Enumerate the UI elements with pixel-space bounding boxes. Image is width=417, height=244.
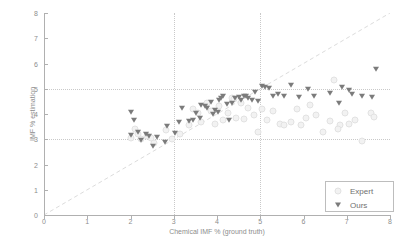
y-tick [44, 114, 48, 115]
data-point-ours [162, 140, 168, 145]
data-point-ours [327, 90, 333, 95]
y-tick-label: 1 [24, 186, 38, 193]
data-point-expert [168, 136, 175, 143]
scatter-plot-figure: 012345678012345678 Chemical IMF % (groun… [0, 0, 417, 244]
data-point-expert [281, 121, 288, 128]
data-point-expert [294, 105, 301, 112]
data-point-ours [208, 100, 214, 105]
data-point-ours [296, 95, 302, 100]
data-point-expert [288, 118, 295, 125]
gridline-horizontal [44, 89, 390, 90]
data-point-expert [259, 105, 266, 112]
data-point-ours [281, 94, 287, 99]
data-point-expert [240, 115, 247, 122]
x-tick-label: 4 [215, 218, 219, 225]
data-point-expert [177, 131, 184, 138]
data-point-ours [305, 87, 311, 92]
x-tick-label: 1 [85, 218, 89, 225]
data-point-expert [224, 109, 231, 116]
data-point-ours [266, 86, 272, 91]
data-point-ours [138, 138, 144, 143]
data-point-expert [298, 122, 305, 129]
data-point-expert [327, 118, 334, 125]
data-point-expert [335, 126, 342, 133]
y-tick [44, 165, 48, 166]
legend-box[interactable]: Expert Ours [325, 181, 394, 212]
y-tick [44, 89, 48, 90]
data-point-ours [128, 133, 134, 138]
data-point-ours [150, 144, 156, 149]
data-point-ours [164, 124, 170, 129]
data-point-expert [211, 120, 218, 127]
gridline-horizontal [44, 139, 390, 140]
legend-entry-ours[interactable]: Ours [326, 197, 393, 212]
data-point-ours [229, 101, 235, 106]
x-tick-label: 0 [42, 218, 46, 225]
data-point-ours [252, 90, 258, 95]
data-point-ours [369, 95, 375, 100]
data-point-ours [131, 117, 137, 122]
y-tick-label: 0 [24, 212, 38, 219]
data-point-expert [245, 104, 252, 111]
legend-label-ours: Ours [350, 200, 367, 209]
y-tick [44, 64, 48, 65]
data-point-expert [250, 112, 257, 119]
data-point-expert [319, 128, 326, 135]
x-tick-label: 3 [172, 218, 176, 225]
ours-triangle-icon [335, 202, 341, 207]
data-point-expert [313, 112, 320, 119]
data-point-ours [128, 110, 134, 115]
data-point-ours [204, 105, 210, 110]
data-point-ours [288, 83, 294, 88]
data-point-ours [255, 99, 261, 104]
data-point-ours [135, 129, 141, 134]
y-tick-label: 6 [24, 60, 38, 67]
data-point-ours [226, 118, 232, 123]
data-point-ours [179, 105, 185, 110]
data-point-ours [190, 117, 196, 122]
data-point-ours [339, 85, 345, 90]
y-tick [44, 139, 48, 140]
data-point-ours [373, 66, 379, 71]
data-point-expert [302, 114, 309, 121]
y-tick-label: 7 [24, 35, 38, 42]
data-point-expert [352, 116, 359, 123]
expert-circle-icon [335, 187, 342, 194]
y-tick-label: 8 [24, 10, 38, 17]
data-point-expert [306, 102, 313, 109]
x-axis-label: Chemical IMF % (ground truth) [169, 228, 265, 235]
data-point-expert [358, 137, 365, 144]
x-tick-label: 6 [302, 218, 306, 225]
data-point-expert [270, 107, 277, 114]
x-tick-label: 7 [345, 218, 349, 225]
data-point-ours [176, 120, 182, 125]
data-point-expert [370, 114, 377, 121]
data-point-ours [220, 94, 226, 99]
y-tick-label: 2 [24, 161, 38, 168]
legend-label-expert: Expert [350, 186, 373, 195]
y-tick [44, 190, 48, 191]
data-point-ours [197, 116, 203, 121]
gridline-vertical [174, 13, 175, 215]
data-point-ours [146, 134, 152, 139]
y-tick [44, 38, 48, 39]
y-axis-label: IMF % estimation [29, 87, 36, 141]
data-point-ours [311, 94, 317, 99]
y-tick [44, 215, 48, 216]
data-point-expert [263, 117, 270, 124]
data-point-ours [215, 110, 221, 115]
data-point-ours [336, 101, 342, 106]
x-tick-label: 2 [129, 218, 133, 225]
data-point-expert [255, 128, 262, 135]
data-point-ours [154, 135, 160, 140]
data-point-expert [341, 109, 348, 116]
x-tick-label: 8 [388, 218, 392, 225]
data-point-expert [233, 114, 240, 121]
y-tick [44, 13, 48, 14]
legend-entry-expert[interactable]: Expert [326, 183, 393, 198]
data-point-ours [249, 98, 255, 103]
data-point-ours [349, 92, 355, 97]
data-point-ours [172, 131, 178, 136]
data-point-ours [359, 94, 365, 99]
gridline-vertical [260, 13, 261, 215]
